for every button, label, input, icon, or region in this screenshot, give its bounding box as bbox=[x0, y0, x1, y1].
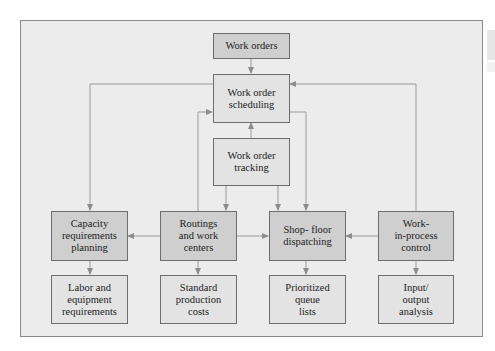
page-edge-mark bbox=[487, 62, 495, 72]
node-prioritized-queue: Prioritized queue lists bbox=[269, 275, 346, 324]
node-work-order-scheduling: Work order scheduling bbox=[213, 74, 290, 123]
arrow-wip-to-scheduling bbox=[290, 84, 416, 211]
arrow-routings-to-scheduling bbox=[198, 112, 212, 211]
node-routings: Routings and work centers bbox=[160, 211, 237, 261]
node-work-orders: Work orders bbox=[213, 33, 290, 59]
arrow-scheduling-to-capacity bbox=[90, 84, 213, 210]
node-input-output: Input/ output analysis bbox=[378, 275, 454, 324]
node-shop-floor-dispatching: Shop- floor dispatching bbox=[269, 211, 346, 261]
node-labor-equipment: Labor and equipment requirements bbox=[51, 275, 128, 324]
node-work-order-tracking: Work order tracking bbox=[213, 138, 290, 186]
node-wip-control: Work- in-process control bbox=[378, 211, 454, 261]
node-capacity-planning: Capacity requirements planning bbox=[51, 211, 128, 261]
arrow-scheduling-to-dispatching bbox=[289, 112, 306, 210]
page-edge-mark bbox=[487, 30, 495, 60]
node-standard-costs: Standard production costs bbox=[160, 275, 237, 324]
